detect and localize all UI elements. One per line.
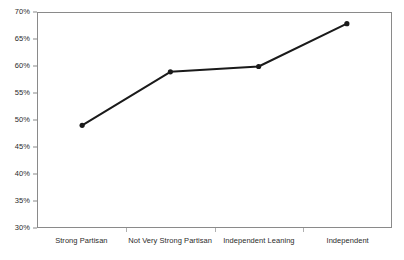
line-chart: 70%65%60%55%50%45%40%35%30% Strong Parti… <box>0 0 404 260</box>
x-axis: Strong PartisanNot Very Strong PartisanI… <box>37 228 392 260</box>
x-tick-label: Strong Partisan <box>55 237 107 245</box>
y-tick-label: 55% <box>15 89 30 97</box>
data-point <box>344 21 349 26</box>
x-tick-label: Independent <box>326 237 368 245</box>
x-tick-label: Not Very Strong Partisan <box>128 237 212 245</box>
y-tick-label: 30% <box>15 224 30 232</box>
x-tick-label: Independent Leaning <box>223 237 294 245</box>
y-tick-label: 50% <box>15 116 30 124</box>
x-tick-mark <box>303 228 304 232</box>
x-tick-mark <box>215 228 216 232</box>
data-line <box>82 24 347 126</box>
y-tick-label: 40% <box>15 170 30 178</box>
y-tick-label: 35% <box>15 197 30 205</box>
data-point <box>80 123 85 128</box>
data-line-svg <box>38 13 391 227</box>
data-point <box>168 69 173 74</box>
plot-area <box>37 12 392 228</box>
data-point <box>256 64 261 69</box>
data-markers <box>80 21 350 128</box>
y-axis: 70%65%60%55%50%45%40%35%30% <box>0 0 37 260</box>
y-tick-label: 70% <box>15 8 30 16</box>
y-tick-label: 65% <box>15 35 30 43</box>
x-tick-mark <box>126 228 127 232</box>
y-tick-label: 60% <box>15 62 30 70</box>
y-tick-label: 45% <box>15 143 30 151</box>
